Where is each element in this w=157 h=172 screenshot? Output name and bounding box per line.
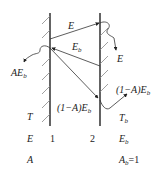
wavy-absorbed-AEb [24, 46, 50, 62]
row-label-A: A [26, 154, 34, 165]
ray-reflected-2 [100, 94, 127, 109]
radiation-diagram: E Eb E AEb (1−A)Eb (1−A)Eb T E A 1 2 Tb … [0, 0, 157, 172]
row-label-T: T [27, 111, 34, 122]
wavy-absorbed-E [100, 22, 116, 50]
ray-reflected-1 [50, 48, 98, 98]
plate2-Tb: Tb [119, 112, 129, 125]
plate-1-number: 1 [50, 133, 55, 144]
plate-2-hatching [100, 28, 108, 92]
label-E-top: E [67, 20, 74, 31]
label-Eb: Eb [71, 41, 82, 54]
label-E-absorbed: E [116, 53, 123, 64]
plate2-Ab: Ab=1 [118, 154, 139, 167]
plate-2-number: 2 [90, 133, 95, 144]
label-AEb: AEb [10, 67, 27, 80]
plate-1 [42, 13, 50, 126]
plate-1-hatching [42, 16, 50, 122]
label-reflected-1: (1−A)Eb [57, 102, 92, 115]
row-label-E: E [26, 133, 33, 144]
ray-E [50, 23, 99, 39]
label-reflected-2: (1−A)Eb [116, 84, 151, 97]
plate2-Eb: Eb [118, 133, 129, 146]
